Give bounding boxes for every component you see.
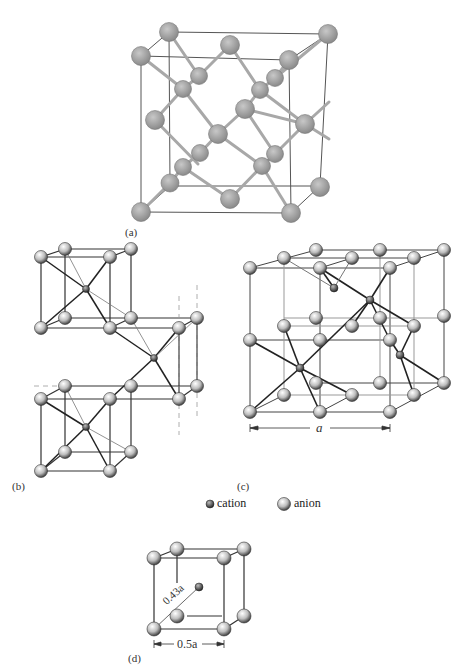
- panel-d-label: (d): [128, 652, 141, 664]
- panel-a-diagram: [132, 23, 338, 223]
- crystal-figure: [0, 0, 467, 672]
- panel-c-diagram: [244, 244, 451, 433]
- legend-cation-label: cation: [217, 496, 246, 511]
- legend-anion-label: anion: [294, 496, 321, 511]
- half-edge-label: 0.5a: [177, 637, 197, 652]
- panel-b-label: (b): [12, 480, 25, 492]
- legend-anion: anion: [294, 496, 321, 511]
- large-sphere-icon: [278, 498, 291, 511]
- small-sphere-icon: [206, 500, 214, 508]
- panel-b-diagram: [34, 243, 204, 478]
- legend-cation: cation: [217, 496, 246, 511]
- panel-c-label: (c): [237, 480, 249, 492]
- lattice-parameter-label: a: [316, 420, 323, 436]
- panel-a-label: (a): [125, 226, 137, 238]
